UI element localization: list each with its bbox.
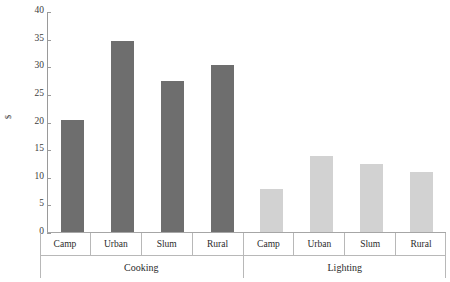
y-tick-label: 10 bbox=[35, 171, 45, 181]
y-tick-label: 20 bbox=[35, 116, 45, 126]
bar-cooking-urban[interactable] bbox=[111, 41, 134, 233]
y-tick-label: 30 bbox=[35, 60, 45, 70]
group-label-lighting: Lighting bbox=[244, 256, 447, 278]
bar-lighting-slum[interactable] bbox=[360, 164, 383, 233]
y-tick-label: 5 bbox=[39, 198, 44, 208]
category-label-cooking-urban: Urban bbox=[91, 233, 142, 255]
y-axis-title: $ bbox=[3, 109, 13, 125]
bar-cooking-camp[interactable] bbox=[61, 120, 84, 233]
y-tick-label: 40 bbox=[35, 5, 45, 15]
category-label-lighting-rural: Rural bbox=[396, 233, 446, 255]
category-label-cooking-camp: Camp bbox=[40, 233, 91, 255]
category-table: CampUrbanSlumRuralCampUrbanSlumRural Coo… bbox=[40, 233, 446, 278]
plot-area bbox=[48, 12, 446, 233]
category-label-lighting-camp: Camp bbox=[244, 233, 295, 255]
bar-chart: $ 0510152025303540 CampUrbanSlumRuralCam… bbox=[0, 0, 450, 282]
category-label-lighting-urban: Urban bbox=[294, 233, 345, 255]
group-label-cooking: Cooking bbox=[40, 256, 244, 278]
bar-lighting-rural[interactable] bbox=[410, 172, 433, 233]
bar-lighting-urban[interactable] bbox=[310, 156, 333, 233]
category-label-cooking-rural: Rural bbox=[193, 233, 244, 255]
bar-lighting-camp[interactable] bbox=[260, 189, 283, 233]
bar-cooking-rural[interactable] bbox=[211, 65, 234, 234]
category-label-row: CampUrbanSlumRuralCampUrbanSlumRural bbox=[40, 233, 446, 255]
y-tick-label: 35 bbox=[35, 33, 45, 43]
y-tick-label: 25 bbox=[35, 88, 45, 98]
bar-cooking-slum[interactable] bbox=[161, 81, 184, 233]
category-label-lighting-slum: Slum bbox=[345, 233, 396, 255]
group-label-row: CookingLighting bbox=[40, 255, 446, 278]
y-tick-label: 15 bbox=[35, 143, 45, 153]
category-label-cooking-slum: Slum bbox=[142, 233, 193, 255]
